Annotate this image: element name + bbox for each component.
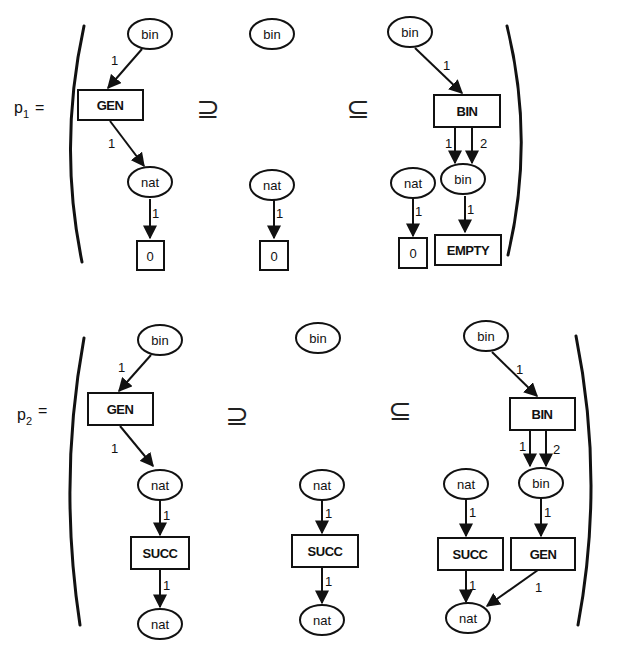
svg-text:BIN: BIN bbox=[532, 407, 553, 422]
svg-text:SUCC: SUCC bbox=[143, 546, 179, 561]
svg-text:bin: bin bbox=[477, 329, 494, 344]
arc-label: 2 bbox=[480, 136, 487, 151]
arc-label: 1 bbox=[276, 206, 283, 221]
svg-text:GEN: GEN bbox=[97, 98, 124, 113]
transition-bin: BIN bbox=[510, 398, 575, 430]
production-name: p1= bbox=[14, 99, 44, 120]
svg-text:BIN: BIN bbox=[457, 104, 478, 119]
svg-text:0: 0 bbox=[270, 249, 277, 264]
svg-text:SUCC: SUCC bbox=[453, 547, 489, 562]
place-bin: bin bbox=[250, 19, 294, 49]
transition-gen: GEN bbox=[78, 90, 143, 120]
arc-label: 1 bbox=[519, 439, 526, 454]
left-paren bbox=[70, 26, 84, 262]
transition-zero: 0 bbox=[137, 241, 164, 270]
transition-succ: SUCC bbox=[292, 535, 358, 567]
arc-label: 1 bbox=[108, 136, 115, 151]
transition-gen: GEN bbox=[511, 538, 575, 570]
right-graph: 1 1 2 1 1 bin BIN nat bin bbox=[388, 17, 501, 268]
arc-label: 1 bbox=[445, 136, 452, 151]
svg-text:bin: bin bbox=[454, 172, 471, 187]
superset-eq-symbol: ⊇ bbox=[225, 399, 248, 432]
place-bin: bin bbox=[128, 19, 172, 49]
arc-label: 1 bbox=[325, 506, 332, 521]
svg-text:bin: bin bbox=[532, 476, 549, 491]
right-paren bbox=[507, 26, 521, 255]
svg-text:EMPTY: EMPTY bbox=[447, 243, 490, 258]
place-nat: nat bbox=[128, 167, 172, 197]
svg-text:GEN: GEN bbox=[530, 547, 557, 562]
production-p1: p1= 1 1 1 bin GEN nat bbox=[14, 17, 521, 270]
production-p2: p2= 1 1 1 1 bin GEN nat bbox=[17, 321, 591, 639]
arc-label: 1 bbox=[544, 505, 551, 520]
svg-text:nat: nat bbox=[459, 611, 477, 626]
svg-text:bin: bin bbox=[141, 27, 158, 42]
arc-label: 1 bbox=[415, 204, 422, 219]
transition-bin: BIN bbox=[434, 95, 500, 127]
svg-text:SUCC: SUCC bbox=[308, 544, 344, 559]
arc-label: 1 bbox=[469, 578, 476, 593]
svg-text:bin: bin bbox=[309, 331, 326, 346]
left-graph: 1 1 1 1 bin GEN nat SUCC bbox=[88, 325, 189, 639]
place-bin: bin bbox=[296, 323, 340, 353]
svg-text:bin: bin bbox=[263, 27, 280, 42]
right-paren bbox=[576, 336, 591, 625]
place-nat: nat bbox=[444, 469, 488, 499]
svg-text:nat: nat bbox=[313, 613, 331, 628]
transition-zero: 0 bbox=[399, 238, 427, 268]
svg-text:nat: nat bbox=[141, 175, 159, 190]
arc-label: 1 bbox=[111, 53, 118, 68]
place-bin: bin bbox=[388, 17, 432, 47]
place-bin: bin bbox=[464, 321, 508, 351]
left-paren bbox=[70, 338, 84, 625]
right-graph: 1 1 2 1 1 1 1 bin BIN nat bbox=[438, 321, 575, 633]
subset-eq-symbol: ⊆ bbox=[346, 92, 369, 125]
place-nat: nat bbox=[300, 470, 344, 500]
superset-eq-symbol: ⊇ bbox=[196, 92, 219, 125]
arc-label: 1 bbox=[516, 362, 523, 377]
arc-label: 1 bbox=[467, 202, 474, 217]
svg-text:nat: nat bbox=[404, 176, 422, 191]
place-bin: bin bbox=[138, 325, 182, 355]
arc-label: 1 bbox=[163, 578, 170, 593]
svg-text:nat: nat bbox=[151, 478, 169, 493]
arc-label: 1 bbox=[118, 360, 125, 375]
svg-text:nat: nat bbox=[457, 477, 475, 492]
svg-text:nat: nat bbox=[313, 478, 331, 493]
place-nat-2: nat bbox=[138, 609, 182, 639]
arc-label: 1 bbox=[535, 580, 542, 595]
transition-succ: SUCC bbox=[438, 538, 503, 570]
svg-text:GEN: GEN bbox=[107, 402, 134, 417]
arc-label: 1 bbox=[443, 58, 450, 73]
svg-text:0: 0 bbox=[146, 249, 153, 264]
subset-eq-symbol: ⊆ bbox=[388, 394, 411, 427]
place-nat: nat bbox=[138, 470, 182, 500]
place-nat: nat bbox=[391, 168, 435, 198]
place-bin-2: bin bbox=[441, 164, 485, 194]
transition-empty: EMPTY bbox=[435, 235, 501, 265]
place-nat: nat bbox=[250, 170, 294, 200]
place-nat-2: nat bbox=[300, 605, 344, 635]
arc-label: 1 bbox=[469, 505, 476, 520]
interface-graph: bin 1 1 nat SUCC nat bbox=[292, 323, 358, 635]
arc-label: 1 bbox=[325, 574, 332, 589]
svg-text:bin: bin bbox=[151, 333, 168, 348]
arc-label: 1 bbox=[111, 441, 118, 456]
transition-succ: SUCC bbox=[131, 537, 189, 569]
svg-text:bin: bin bbox=[401, 25, 418, 40]
left-graph: 1 1 1 bin GEN nat 0 bbox=[78, 19, 172, 270]
production-rules-diagram: p1= 1 1 1 bin GEN nat bbox=[0, 0, 625, 658]
arc-label: 1 bbox=[163, 508, 170, 523]
place-nat-2: nat bbox=[446, 603, 490, 633]
arc-label: 1 bbox=[152, 206, 159, 221]
arc-label: 2 bbox=[553, 442, 560, 457]
transition-zero: 0 bbox=[260, 241, 288, 270]
svg-text:0: 0 bbox=[409, 246, 416, 261]
transition-gen: GEN bbox=[88, 393, 153, 425]
place-bin-2: bin bbox=[519, 468, 563, 498]
interface-graph: bin 1 nat 0 bbox=[250, 19, 294, 270]
svg-text:nat: nat bbox=[151, 617, 169, 632]
production-name: p2= bbox=[17, 402, 47, 427]
svg-text:nat: nat bbox=[263, 178, 281, 193]
